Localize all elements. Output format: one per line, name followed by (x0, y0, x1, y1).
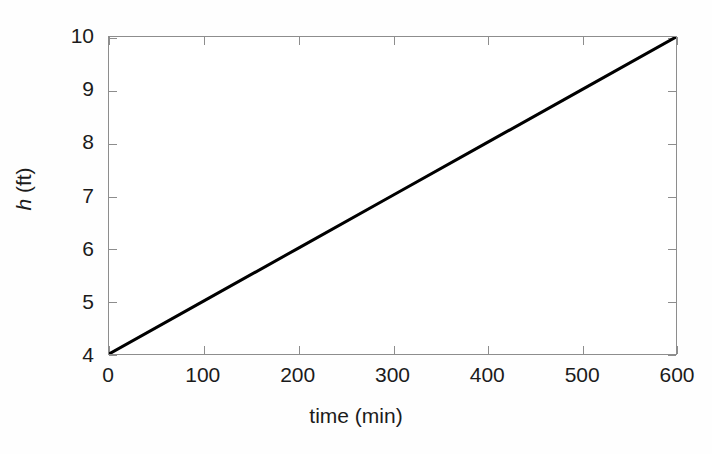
xtick-label: 400 (447, 363, 527, 387)
ytick-label: 5 (46, 290, 94, 314)
y-axis-tick-right (668, 355, 676, 356)
ytick-label: 10 (46, 24, 94, 48)
xtick-label: 300 (353, 363, 433, 387)
figure-container: 4 5 6 7 8 9 10 0 100 200 300 400 500 600… (0, 0, 712, 454)
ytick-label: 8 (46, 130, 94, 154)
y-axis-title-unit: (ft) (12, 167, 35, 199)
ytick-label: 6 (46, 237, 94, 261)
xtick-label: 100 (163, 363, 243, 387)
x-axis-tick-top (677, 37, 678, 45)
plot-area (108, 36, 677, 355)
y-axis-title-variable: h (12, 199, 35, 211)
xtick-label: 500 (542, 363, 622, 387)
xtick-label: 600 (637, 363, 712, 387)
x-axis-title: time (min) (0, 404, 712, 428)
ytick-label: 7 (46, 184, 94, 208)
data-line-series-0 (109, 37, 676, 354)
ytick-label: 9 (46, 77, 94, 101)
data-series-svg (109, 37, 676, 354)
xtick-label: 0 (68, 363, 148, 387)
x-axis-tick (677, 346, 678, 354)
xtick-label: 200 (258, 363, 338, 387)
y-axis-tick (109, 355, 117, 356)
y-axis-title: h (ft) (12, 129, 36, 249)
